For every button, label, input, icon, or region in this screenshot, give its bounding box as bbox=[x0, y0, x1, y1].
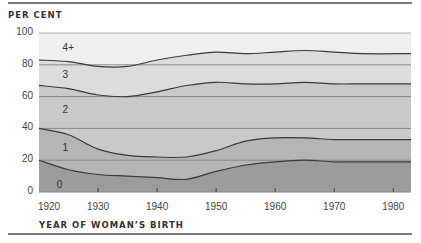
x-tick-label: 1970 bbox=[323, 201, 345, 212]
band-label: 3 bbox=[63, 69, 69, 80]
x-tick-label: 1930 bbox=[87, 201, 109, 212]
band-label: 0 bbox=[57, 179, 63, 190]
x-tick-label: 1940 bbox=[146, 201, 168, 212]
x-axis-title: YEAR OF WOMAN’S BIRTH bbox=[39, 220, 184, 230]
bottom-rule bbox=[8, 233, 412, 235]
y-tick-label: 80 bbox=[0, 58, 33, 69]
x-tick-label: 1920 bbox=[38, 201, 60, 212]
x-tick-label: 1950 bbox=[205, 201, 227, 212]
y-tick-label: 60 bbox=[0, 90, 33, 101]
x-tick-label: 1960 bbox=[264, 201, 286, 212]
y-tick-label: 100 bbox=[0, 26, 33, 37]
y-tick-label: 0 bbox=[0, 185, 33, 196]
band-label: 1 bbox=[63, 142, 69, 153]
y-tick-label: 20 bbox=[0, 153, 33, 164]
y-tick-label: 40 bbox=[0, 121, 33, 132]
band-label: 2 bbox=[63, 104, 69, 115]
x-tick-label: 1980 bbox=[382, 201, 404, 212]
band-label: 4+ bbox=[63, 42, 75, 53]
